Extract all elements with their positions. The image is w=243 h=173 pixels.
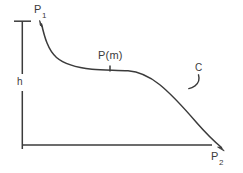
label-p2: P2	[211, 151, 223, 165]
label-p1-subscript: 1	[42, 11, 47, 20]
label-point-m: P(m)	[98, 50, 123, 61]
label-p1: P1	[34, 4, 46, 18]
curve-label-leader	[189, 75, 199, 89]
label-p2-base: P	[211, 150, 219, 162]
label-p1-base: P	[34, 3, 42, 15]
curve-diagram-figure: P1 P(m) C h P2	[0, 0, 243, 173]
diagram-canvas	[0, 0, 243, 173]
label-height-h: h	[17, 77, 23, 87]
label-curve-c: C	[195, 63, 202, 73]
label-p2-subscript: 2	[219, 158, 224, 167]
